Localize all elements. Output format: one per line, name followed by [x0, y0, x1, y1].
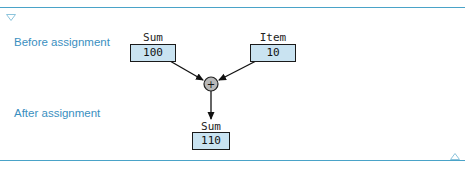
svg-text:+: +: [207, 79, 215, 90]
arrow-item-to-plus: [219, 61, 256, 80]
diagram-arrows: +: [0, 0, 465, 170]
item-before-box: 10: [250, 44, 296, 62]
arrow-sum-to-plus: [170, 61, 203, 80]
sum-before-box: 100: [130, 44, 176, 62]
sum-after-box: 110: [192, 132, 230, 150]
plus-operator-icon: +: [204, 77, 218, 91]
item-before-name: Item: [250, 31, 296, 44]
sum-before-name: Sum: [130, 31, 176, 44]
